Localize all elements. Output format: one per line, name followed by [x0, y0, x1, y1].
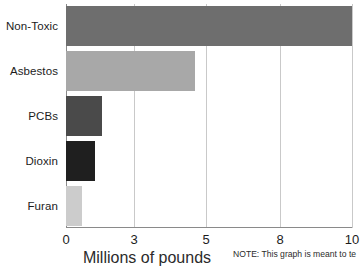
category-label-furan: Furan: [0, 200, 58, 212]
x-axis-title: Millions of pounds: [62, 249, 232, 267]
bar-chart: Non-Toxic Asbestos PCBs Dioxin Furan 0 3…: [0, 0, 361, 272]
bar-dioxin: [66, 141, 95, 181]
xtick-label-0: 0: [62, 232, 69, 247]
bar-furan: [66, 186, 82, 226]
xtick-label-3: 3: [130, 232, 137, 247]
xtick-label-10: 10: [345, 232, 359, 247]
bar-pcbs: [66, 96, 102, 136]
xtick-label-5: 5: [202, 232, 209, 247]
plot-area: [66, 4, 352, 228]
category-label-dioxin: Dioxin: [0, 155, 58, 167]
category-label-non-toxic: Non-Toxic: [0, 20, 58, 32]
category-label-asbestos: Asbestos: [0, 65, 58, 77]
x-axis-line: [66, 227, 352, 228]
xtick-label-8: 8: [276, 232, 283, 247]
category-axis-labels: Non-Toxic Asbestos PCBs Dioxin Furan: [0, 0, 62, 228]
category-label-pcbs: PCBs: [0, 110, 58, 122]
chart-note: NOTE: This graph is meant to te: [233, 250, 361, 272]
bar-asbestos: [66, 51, 195, 91]
chart-note-line-1: NOTE: This graph is meant to te: [233, 250, 361, 260]
gridline-10: [352, 4, 353, 228]
bar-non-toxic: [66, 6, 352, 46]
